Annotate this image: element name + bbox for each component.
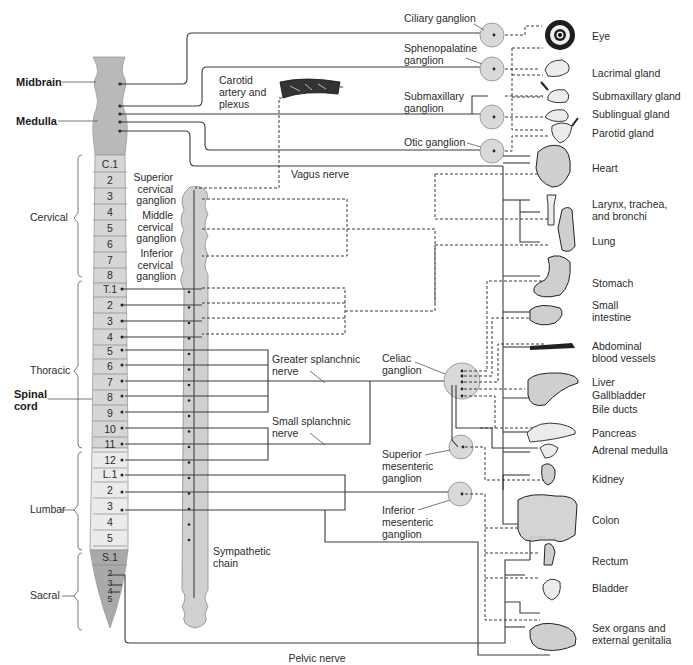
cranial-postganglionic <box>505 26 550 151</box>
organ-label-liver: Liver <box>592 376 615 388</box>
organ-label-rectum: Rectum <box>592 555 628 567</box>
organ-label-abdominal-vessels: Abdominalblood vessels <box>592 340 656 364</box>
segment-4: 4 <box>107 331 113 343</box>
segment-11: 11 <box>105 438 116 450</box>
segment-6: 6 <box>107 360 113 372</box>
organ-label-sex-organs: Sex organs andexternal genitalia <box>592 622 672 646</box>
parotid-gland-icon <box>552 123 572 143</box>
sphenopalatine-ganglion-label: Sphenopalatine ganglion <box>404 42 480 66</box>
segment-3: 3 <box>107 500 113 512</box>
lumbar-label: Lumbar <box>30 503 66 515</box>
inferior-cervical-ganglion-label: Inferior cervical ganglion <box>136 247 176 282</box>
midbrain-label: Midbrain <box>16 76 62 88</box>
lung-icon <box>558 208 575 252</box>
segment-5: 5 <box>107 222 113 234</box>
sympathetic-chain-label: Sympathetic chain <box>213 545 274 569</box>
superior-cervical-ganglion-label: Superior cervical ganglion <box>133 171 176 206</box>
submaxillary-ganglion-label: Submaxillary ganglion <box>404 90 467 114</box>
superior-mesenteric-label: Superior mesenteric ganglion <box>382 448 436 484</box>
segment-2: 2 <box>107 484 113 496</box>
sublingual-gland-icon <box>545 110 568 122</box>
small-intestine-icon <box>530 305 562 324</box>
segment-3: 3 <box>107 190 113 202</box>
eye-icon <box>545 20 575 50</box>
segment-10: 10 <box>104 423 116 435</box>
sympathetic-chain <box>181 186 208 628</box>
celiac-ganglion-label: Celiac ganglion <box>382 352 422 376</box>
segment-12: 12 <box>104 454 116 466</box>
organ-label-gallbladder: Gallbladder <box>592 389 646 401</box>
organ-label-submaxillary: Submaxillary gland <box>592 90 681 102</box>
segment-5: 5 <box>107 345 113 357</box>
ciliary-ganglion-label: Ciliary ganglion <box>404 12 476 24</box>
thoracic-label: Thoracic <box>30 364 70 376</box>
lacrimal-gland-icon <box>545 60 569 77</box>
greater-splanchnic-label: Greater splanchnic nerve <box>272 353 363 377</box>
segment-s1: S.1 <box>102 551 118 563</box>
cervical-label: Cervical <box>30 211 68 223</box>
middle-cervical-ganglion-label: Middle cervical ganglion <box>136 209 176 244</box>
segment-8: 8 <box>107 269 113 281</box>
segment-2: 2 <box>107 299 113 311</box>
submaxillary-gland-icon <box>548 90 569 103</box>
segment-c1: C.1 <box>102 158 119 170</box>
carotid-plexus-label: Carotid artery and plexus <box>219 74 269 110</box>
segment-2: 2 <box>107 174 113 186</box>
segment-6: 6 <box>107 238 113 250</box>
medulla-label: Medulla <box>16 115 58 127</box>
otic-ganglion-label: Otic ganglion <box>404 136 465 148</box>
segment-l1: L.1 <box>103 468 118 480</box>
organ-label-bile-ducts: Bile ducts <box>592 403 638 415</box>
organ-label-small-intestine: Smallintestine <box>592 299 631 323</box>
trachea-icon <box>547 195 556 225</box>
organ-label-pancreas: Pancreas <box>592 427 636 439</box>
organ-label-adrenal: Adrenal medulla <box>592 444 668 456</box>
pelvic-nerve-label: Pelvic nerve <box>288 652 345 664</box>
kidney-icon <box>542 464 556 485</box>
sacral-label: Sacral <box>30 589 60 601</box>
sympathetic-postganglionic <box>202 174 550 334</box>
organ-label-eye: Eye <box>592 30 610 42</box>
autonomic-nervous-system-diagram: C.12345678T.123456789101112L.12345S.1234… <box>0 0 693 665</box>
segment-3: 3 <box>107 315 113 327</box>
organ-label-lacrimal: Lacrimal gland <box>592 67 660 79</box>
segment-4: 4 <box>107 206 113 218</box>
organ-icons <box>518 20 578 650</box>
segment-7: 7 <box>107 254 113 266</box>
bladder-icon <box>543 579 560 600</box>
segment-4: 4 <box>107 516 113 528</box>
segment-8: 8 <box>107 391 113 403</box>
segment-9: 9 <box>107 407 113 419</box>
vagus-nerve-label: Vagus nerve <box>291 168 349 180</box>
heart-icon <box>536 145 570 187</box>
sex-organs-icon <box>530 623 576 650</box>
carotid-artery-icon <box>280 79 340 98</box>
organ-label-kidney: Kidney <box>592 473 625 485</box>
organ-label-stomach: Stomach <box>592 277 634 289</box>
organ-label-bladder: Bladder <box>592 582 629 594</box>
inferior-mesenteric-label: Inferior mesenteric ganglion <box>382 504 436 540</box>
organ-label-heart: Heart <box>592 162 618 174</box>
colon-icon <box>518 495 577 542</box>
cranial-ganglia <box>480 23 504 163</box>
pancreas-icon <box>527 423 575 442</box>
liver-icon <box>528 373 578 406</box>
abdominal-ganglia <box>444 363 538 506</box>
adrenal-icon <box>540 444 558 458</box>
segment-2: 2 <box>107 568 112 578</box>
segment-t1: T.1 <box>103 283 117 295</box>
organ-labels: EyeLacrimal glandSubmaxillary glandSubli… <box>592 30 681 646</box>
segment-5: 5 <box>107 532 113 544</box>
organ-label-parotid: Parotid gland <box>592 127 654 139</box>
organ-label-lung: Lung <box>592 235 616 247</box>
rectum-icon <box>544 544 555 565</box>
organ-label-larynx: Larynx, trachea,and bronchi <box>592 198 667 222</box>
spinal-cord-label: Spinal cord <box>14 388 50 412</box>
organ-label-colon: Colon <box>592 514 620 526</box>
organ-label-sublingual: Sublingual gland <box>592 108 670 120</box>
segment-7: 7 <box>107 376 113 388</box>
segment-5: 5 <box>107 594 112 604</box>
